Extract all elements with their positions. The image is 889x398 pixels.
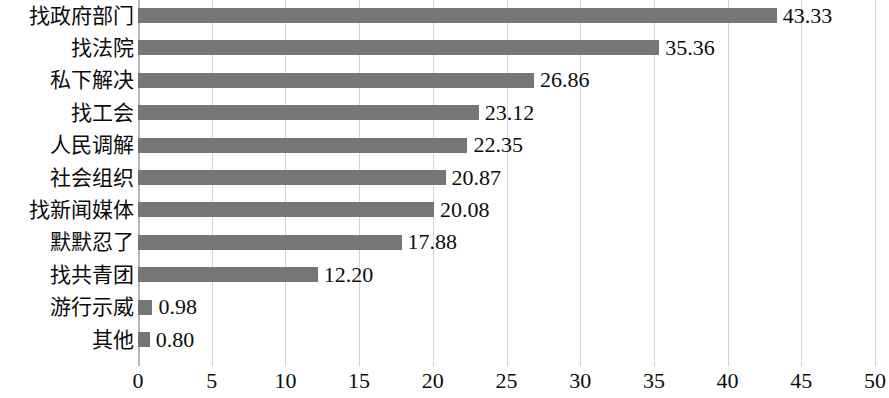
category-label-0: 找政府部门 (0, 5, 134, 27)
x-tick-label-15: 15 (348, 368, 370, 394)
bar-value-label: 43.33 (783, 5, 833, 27)
bar (138, 170, 446, 185)
x-tick-label-30: 30 (569, 368, 591, 394)
bar (138, 267, 318, 282)
bar (138, 332, 150, 347)
category-label-1: 找法院 (0, 37, 134, 59)
category-label-8: 找共青团 (0, 264, 134, 286)
bar-value-label: 20.08 (440, 199, 490, 221)
category-axis-labels: 找政府部门找法院私下解决找工会人民调解社会组织找新闻媒体默默忍了找共青团游行示威… (0, 0, 134, 366)
x-tick-label-40: 40 (717, 368, 739, 394)
category-label-4: 人民调解 (0, 134, 134, 156)
x-tick-label-25: 25 (496, 368, 518, 394)
x-tick-label-10: 10 (274, 368, 296, 394)
category-label-9: 游行示威 (0, 296, 134, 318)
category-label-2: 私下解决 (0, 69, 134, 91)
x-tick-label-20: 20 (422, 368, 444, 394)
value-axis-tick-labels: 05101520253035404550 (138, 368, 875, 398)
bar-chart: 找政府部门找法院私下解决找工会人民调解社会组织找新闻媒体默默忍了找共青团游行示威… (0, 0, 889, 398)
bar-value-label: 0.98 (158, 296, 197, 318)
x-tick-label-0: 0 (133, 368, 144, 394)
bar (138, 138, 467, 153)
category-label-3: 找工会 (0, 102, 134, 124)
bar-value-label: 35.36 (665, 37, 715, 59)
bar-value-label: 22.35 (473, 134, 523, 156)
bar (138, 202, 434, 217)
bar-value-label: 17.88 (408, 231, 458, 253)
bar (138, 105, 479, 120)
gridline-50 (875, 0, 876, 366)
x-tick-label-50: 50 (864, 368, 886, 394)
category-label-10: 其他 (0, 329, 134, 351)
bar (138, 8, 777, 23)
bar-value-label: 26.86 (540, 69, 590, 91)
bar-value-label: 12.20 (324, 264, 374, 286)
bar-value-label: 20.87 (452, 167, 502, 189)
x-tick-label-5: 5 (206, 368, 217, 394)
bar-value-label: 0.80 (156, 329, 195, 351)
gridline-45 (801, 0, 802, 366)
gridline-40 (728, 0, 729, 366)
x-tick-label-45: 45 (790, 368, 812, 394)
bar (138, 73, 534, 88)
bar-value-label: 23.12 (485, 102, 535, 124)
plot-area: 43.3335.3626.8623.1222.3520.8720.0817.88… (138, 0, 875, 366)
bar (138, 235, 402, 250)
x-tick-label-35: 35 (643, 368, 665, 394)
category-label-5: 社会组织 (0, 167, 134, 189)
category-label-6: 找新闻媒体 (0, 199, 134, 221)
bar (138, 40, 659, 55)
category-label-7: 默默忍了 (0, 231, 134, 253)
bar (138, 300, 152, 315)
